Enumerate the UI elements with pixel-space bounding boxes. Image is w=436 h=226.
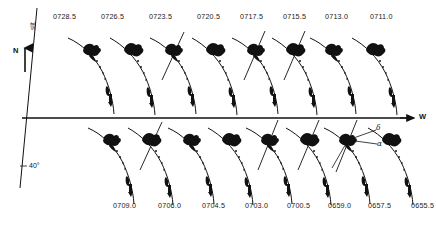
slit-angle-label: 40°: [29, 162, 40, 169]
time-label-bottom-5: 0659.0: [328, 201, 351, 210]
lower-sequence: [88, 120, 413, 205]
arc-0726-5: [110, 38, 155, 115]
arc-0723-5: [150, 32, 196, 114]
arc-0659-0: [286, 120, 331, 205]
solar-prominence-figure: slit N W 40° δ α 0728.5 0726.5 0723.5 07…: [0, 0, 436, 226]
time-label-top-7: 0711.0: [370, 12, 393, 21]
time-label-bottom-1: 0706.0: [158, 201, 181, 210]
arc-0711-0: [352, 38, 397, 115]
arc-0704-5: [168, 128, 214, 204]
time-label-top-0: 0728.5: [53, 12, 76, 21]
west-label: W: [419, 112, 426, 121]
arc-0657-5: [324, 120, 377, 204]
arc-0715-5: [272, 31, 317, 115]
time-label-bottom-3: 0703.0: [245, 201, 268, 210]
arc-0720-5: [192, 38, 237, 115]
arc-0700-5: [246, 120, 292, 204]
arc-0709-0: [88, 128, 134, 204]
delta-annotation: δ: [376, 123, 381, 132]
time-label-top-6: 0713.0: [325, 12, 348, 21]
upper-sequence: [68, 31, 397, 115]
north-label: N: [13, 46, 18, 55]
time-label-top-2: 0723.5: [149, 12, 172, 21]
arc-0706-0: [128, 122, 173, 205]
slit-line: [20, 8, 37, 188]
arc-0717-5: [232, 31, 278, 114]
arc-0703-0: [208, 128, 253, 205]
time-label-bottom-4: 0700.5: [287, 201, 310, 210]
time-label-top-4: 0717.5: [240, 12, 263, 21]
time-label-bottom-2: 0704.5: [202, 201, 225, 210]
slit-label: slit: [29, 22, 36, 30]
time-label-bottom-0: 0709.0: [113, 201, 136, 210]
time-label-top-1: 0726.5: [101, 12, 124, 21]
figure-canvas: [0, 0, 436, 226]
arc-0655-5: [368, 128, 413, 205]
arc-0728-5: [68, 38, 114, 114]
time-label-bottom-7: 0655.5: [411, 201, 434, 210]
time-label-top-5: 0715.5: [283, 12, 306, 21]
time-label-top-3: 0720.5: [197, 12, 220, 21]
time-label-bottom-6: 0657.5: [368, 201, 391, 210]
arc-0713-0: [310, 38, 356, 114]
alpha-annotation: α: [377, 139, 382, 148]
